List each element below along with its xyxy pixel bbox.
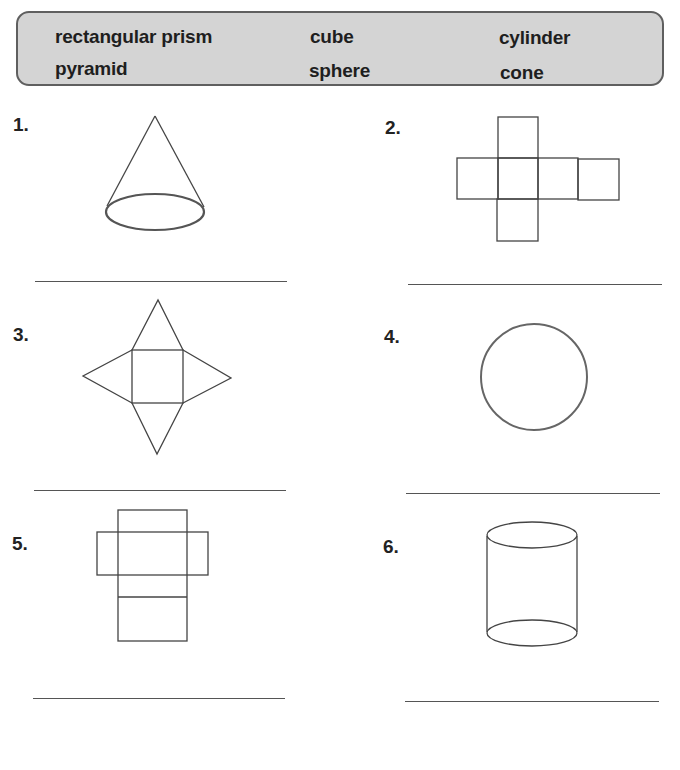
answer-line-4[interactable] <box>406 493 660 494</box>
answer-line-1[interactable] <box>35 281 287 282</box>
cylinder-figure <box>487 522 577 646</box>
sphere-figure <box>481 324 587 430</box>
cube-net-figure <box>457 117 619 241</box>
pyramid-net-figure <box>83 300 231 454</box>
cone-figure <box>106 116 204 230</box>
rectangular-prism-net-figure <box>97 510 208 641</box>
figures-layer <box>0 0 680 770</box>
answer-line-3[interactable] <box>34 490 286 491</box>
answer-line-5[interactable] <box>33 698 285 699</box>
answer-line-6[interactable] <box>405 701 659 702</box>
answer-line-2[interactable] <box>408 284 662 285</box>
